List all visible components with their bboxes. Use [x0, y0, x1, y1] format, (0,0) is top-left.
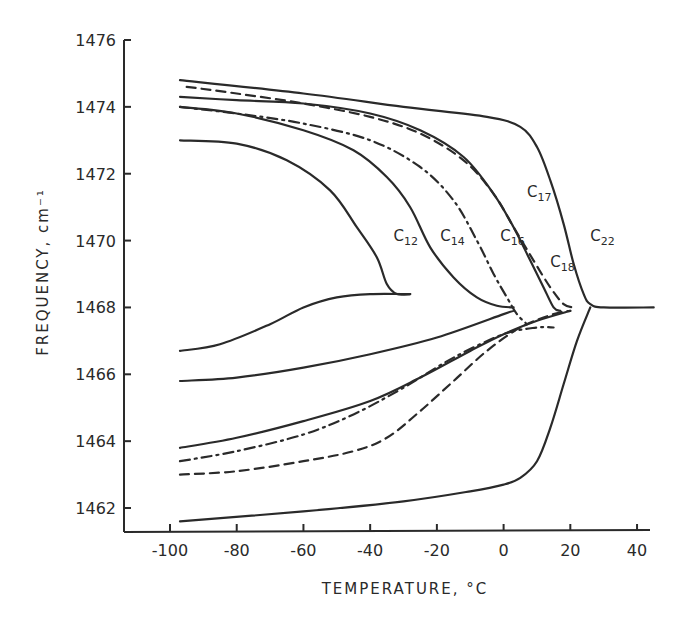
curve-label-c14: C14: [440, 227, 464, 248]
y-tick-label: 1474: [75, 98, 116, 117]
y-tick-label: 1472: [75, 165, 116, 184]
curve-c22-upper: [180, 80, 654, 308]
frequency-vs-temperature-chart: 14761474147214701468146614641462 -100-80…: [0, 0, 690, 618]
y-tick-label: 1468: [75, 298, 116, 317]
curve-c18-upper: [187, 87, 574, 308]
curve-c12-upper: [180, 140, 410, 295]
curve-c16-lower: [180, 327, 554, 461]
y-ticks: 14761474147214701468146614641462: [75, 31, 131, 518]
curve-label-c16: C16: [500, 227, 524, 248]
x-tick-label: 0: [499, 541, 509, 560]
x-tick-label: -40: [357, 541, 383, 560]
x-tick-label: -60: [290, 541, 316, 560]
curve-label-c22: C22: [590, 227, 614, 248]
curve-c14-upper: [180, 107, 514, 308]
curves: [180, 80, 654, 521]
curve-c12-lower: [180, 294, 410, 351]
x-tick-label: -80: [224, 541, 250, 560]
x-axis-title: TEMPERATURE, °C: [321, 580, 489, 598]
y-tick-label: 1466: [75, 365, 116, 384]
x-tick-label: 40: [627, 541, 647, 560]
curve-c22-lower: [180, 307, 590, 521]
x-tick-label: 20: [560, 541, 580, 560]
y-tick-label: 1462: [75, 499, 116, 518]
y-tick-label: 1470: [75, 232, 116, 251]
y-axis-title: FREQUENCY, cm⁻¹: [34, 188, 52, 356]
curve-labels: C12C14C16C17C18C22: [394, 183, 615, 274]
y-tick-label: 1476: [75, 31, 116, 50]
curve-c14-lower: [180, 311, 514, 381]
curve-c17-upper: [180, 97, 560, 311]
curve-label-c12: C12: [394, 227, 418, 248]
x-tick-label: -100: [152, 541, 188, 560]
x-tick-label: -20: [424, 541, 450, 560]
curve-c16-upper: [180, 107, 527, 324]
curve-label-c17: C17: [527, 183, 551, 204]
y-tick-label: 1464: [75, 432, 116, 451]
